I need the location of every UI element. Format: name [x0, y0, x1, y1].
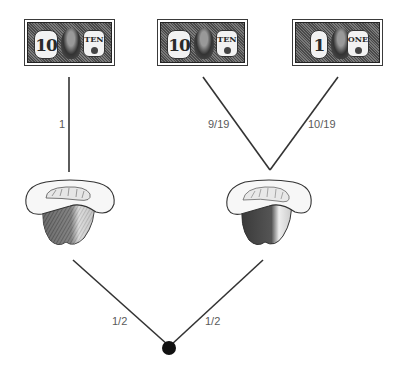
edge-label-middle-ten: 9/19 [208, 118, 229, 130]
banknote-icon: 10 TEN [27, 22, 112, 63]
edge-root-to-hat-left [73, 260, 168, 345]
edge-label-root-right: 1/2 [205, 315, 220, 327]
banknote-icon: 10 TEN [160, 22, 245, 63]
hat-right [223, 176, 315, 250]
bill-numeral: 1 [310, 30, 328, 59]
probability-tree-diagram: 1 9/19 10/19 1/2 1/2 10 TEN 10 TEN 1 [0, 0, 399, 379]
banknote-icon: 1 ONE [295, 22, 380, 63]
portrait-icon [194, 28, 214, 59]
bill-word: TEN [217, 34, 236, 44]
portrait-icon [61, 28, 81, 59]
bill-word-panel: ONE [347, 30, 369, 57]
edge-label-right-one: 10/19 [308, 118, 336, 130]
hat-left [22, 176, 118, 250]
edge-label-left-ten: 1 [59, 118, 65, 130]
bill-word-panel: TEN [216, 30, 238, 57]
root-node [162, 341, 176, 355]
seal-icon [91, 47, 98, 54]
edge-label-root-left: 1/2 [112, 315, 127, 327]
bill-right-one: 1 ONE [292, 19, 383, 66]
bill-numeral: 10 [167, 30, 191, 59]
bill-word: ONE [348, 34, 368, 44]
edge-root-to-hat-right [171, 260, 263, 345]
bill-word-panel: TEN [83, 30, 105, 57]
bill-word: TEN [84, 34, 103, 44]
seal-icon [355, 47, 362, 54]
bill-left-ten: 10 TEN [24, 19, 115, 66]
seal-icon [224, 47, 231, 54]
bill-numeral: 10 [34, 30, 58, 59]
bill-middle-ten: 10 TEN [157, 19, 248, 66]
